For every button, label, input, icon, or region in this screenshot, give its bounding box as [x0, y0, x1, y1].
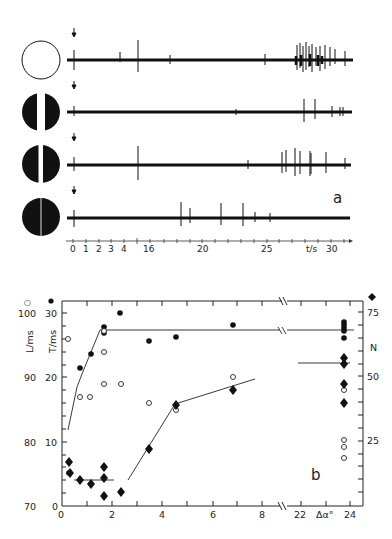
time-axis-unit: t/s — [306, 244, 318, 254]
series-N-filled-diamonds — [65, 353, 348, 501]
T-tick-10: 10 — [45, 437, 57, 448]
N-tick-50: 50 — [367, 371, 379, 382]
x-tick-24: 24 — [344, 509, 356, 520]
panel-a-label: a — [333, 189, 342, 207]
L-tick-100: 100 — [18, 308, 36, 319]
N-axis-label: N — [370, 342, 377, 353]
stimulus-thin-line-icon — [22, 198, 60, 236]
x-tick-22: 22 — [294, 509, 306, 520]
L-tick-90: 90 — [24, 372, 36, 383]
T-axis-marker-filled-circle-icon — [48, 298, 53, 303]
spike-trace-4 — [67, 202, 350, 227]
stimulus-white-disc-icon — [22, 41, 60, 79]
time-tick-4: 4 — [121, 244, 127, 254]
series-T-filled-circles — [66, 310, 347, 476]
L-tick-70: 70 — [24, 501, 36, 512]
time-tick-2: 2 — [96, 244, 102, 254]
panel-b-label: b — [311, 466, 321, 484]
stimulus-narrow-slit-icon — [22, 145, 60, 183]
stimulus-wide-slit-icon — [22, 93, 60, 131]
time-tick-20: 20 — [197, 244, 209, 254]
x-tick-8: 8 — [259, 509, 265, 520]
time-tick-0: 0 — [70, 244, 76, 254]
T-tick-30: 30 — [45, 308, 57, 319]
L-axis-marker-open-circle-icon: ○ — [24, 298, 31, 307]
x-axis-label: Δα° — [316, 509, 334, 520]
N-axis-marker-diamond-icon — [368, 293, 376, 301]
time-tick-3: 3 — [108, 244, 114, 254]
time-tick-16: 16 — [143, 244, 155, 254]
time-tick-1: 1 — [83, 244, 89, 254]
figure: a 0 1 2 3 4 16 20 25 t/s 30 — [0, 0, 392, 539]
x-tick-2: 2 — [109, 509, 115, 520]
spike-trace-3 — [67, 146, 351, 180]
L-axis-label: L/ms — [24, 330, 35, 353]
T-axis-label: T/ms — [47, 330, 58, 354]
N-tick-75: 75 — [367, 307, 379, 318]
panel-b: ○ 100 30 90 20 80 10 70 0 L/ms T/ms 75 N… — [18, 293, 379, 520]
spike-trace-1 — [67, 40, 353, 72]
time-tick-25: 25 — [261, 244, 272, 254]
time-tick-30: 30 — [326, 244, 338, 254]
L-tick-80: 80 — [24, 437, 36, 448]
T-tick-20: 20 — [45, 372, 57, 383]
x-tick-6: 6 — [210, 509, 216, 520]
panel-a: a 0 1 2 3 4 16 20 25 t/s 30 — [22, 28, 353, 254]
spike-trace-2 — [67, 99, 352, 122]
fit-lines — [68, 327, 354, 480]
x-tick-0: 0 — [58, 509, 64, 520]
N-tick-25: 25 — [367, 435, 379, 446]
x-tick-4: 4 — [159, 509, 165, 520]
